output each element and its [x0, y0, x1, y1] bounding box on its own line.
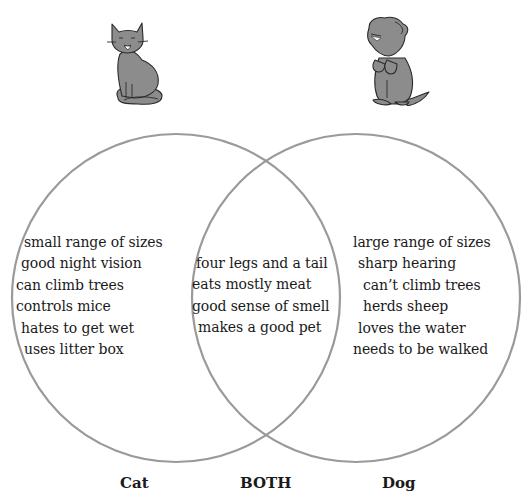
- list-item: good night vision: [21, 253, 163, 274]
- list-item: four legs and a tail: [192, 253, 330, 274]
- list-item: can’t climb trees: [353, 275, 491, 296]
- both-label: BOTH: [240, 474, 291, 492]
- list-item: large range of sizes: [353, 232, 491, 253]
- list-item: needs to be walked: [353, 339, 491, 360]
- list-item: small range of sizes: [21, 232, 163, 253]
- list-item: herds sheep: [353, 296, 491, 317]
- list-item: can climb trees: [16, 275, 163, 296]
- dog-icon: [365, 14, 433, 106]
- cat-only-list: small range of sizes good night vision c…: [21, 232, 163, 360]
- both-list: four legs and a tail eats mostly meat go…: [192, 253, 330, 339]
- list-item: eats mostly meat: [192, 274, 330, 295]
- list-item: controls mice: [16, 296, 163, 317]
- dog-only-list: large range of sizes sharp hearing can’t…: [353, 232, 491, 360]
- list-item: hates to get wet: [21, 318, 163, 339]
- cat-label: Cat: [120, 474, 149, 492]
- list-item: uses litter box: [21, 339, 163, 360]
- list-item: makes a good pet: [192, 317, 330, 338]
- list-item: loves the water: [353, 318, 491, 339]
- list-item: sharp hearing: [353, 253, 491, 274]
- dog-label: Dog: [382, 474, 416, 492]
- list-item: good sense of smell: [192, 296, 330, 317]
- cat-icon: [104, 20, 166, 106]
